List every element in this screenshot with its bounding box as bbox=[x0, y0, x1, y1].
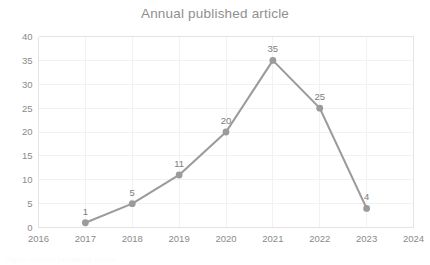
x-tick-label: 2022 bbox=[309, 233, 330, 244]
data-point-label: 5 bbox=[130, 187, 135, 198]
x-axis-tick-labels: 201620172018201920202021202220232024 bbox=[28, 233, 424, 244]
data-point-marker bbox=[223, 129, 230, 136]
line-chart-plot: 0510152025303540 20162017201820192020202… bbox=[0, 0, 430, 265]
y-tick-label: 40 bbox=[22, 31, 33, 42]
y-tick-label: 10 bbox=[22, 174, 33, 185]
data-point-marker bbox=[316, 105, 323, 112]
y-tick-label: 15 bbox=[22, 150, 33, 161]
x-tick-label: 2019 bbox=[169, 233, 190, 244]
data-point-label: 20 bbox=[221, 115, 232, 126]
y-tick-label: 35 bbox=[22, 55, 33, 66]
data-point-marker bbox=[129, 200, 136, 207]
y-tick-label: 5 bbox=[27, 198, 32, 209]
data-point-marker bbox=[176, 172, 183, 179]
x-tick-label: 2023 bbox=[356, 233, 377, 244]
data-point-label: 11 bbox=[174, 158, 184, 169]
chart-figure: Annual published article 051015202530354… bbox=[0, 0, 430, 265]
figure-caption: Figure: Annual published article bbox=[4, 254, 424, 265]
x-tick-label: 2017 bbox=[75, 233, 96, 244]
y-tick-label: 30 bbox=[22, 79, 33, 90]
data-point-label: 1 bbox=[83, 206, 88, 217]
x-tick-label: 2021 bbox=[262, 233, 283, 244]
y-tick-label: 0 bbox=[27, 222, 32, 233]
data-point-label: 4 bbox=[364, 191, 369, 202]
data-point-label: 25 bbox=[314, 91, 325, 102]
y-tick-label: 20 bbox=[22, 126, 33, 137]
y-axis-tick-labels: 0510152025303540 bbox=[22, 31, 33, 233]
x-tick-label: 2018 bbox=[122, 233, 143, 244]
y-tick-label: 25 bbox=[22, 103, 33, 114]
x-tick-label: 2016 bbox=[28, 233, 49, 244]
data-point-marker bbox=[363, 205, 370, 212]
data-point-label: 35 bbox=[268, 43, 279, 54]
x-tick-label: 2020 bbox=[215, 233, 236, 244]
data-point-marker bbox=[269, 57, 276, 64]
data-point-marker bbox=[82, 219, 89, 226]
x-tick-label: 2024 bbox=[403, 233, 424, 244]
